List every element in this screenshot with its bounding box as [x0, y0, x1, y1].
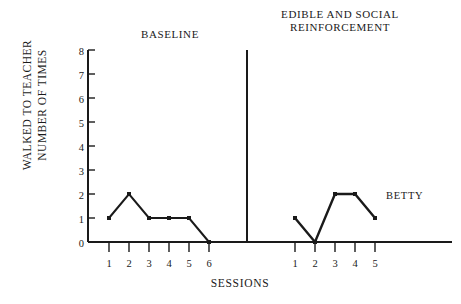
data-markers-treatment — [293, 192, 377, 244]
data-line-baseline — [109, 194, 209, 242]
x-axis-ticks-baseline — [109, 242, 209, 252]
data-line-treatment — [295, 194, 375, 242]
chart-figure: BASELINE EDIBLE AND SOCIAL REINFORCEMENT… — [0, 0, 461, 304]
y-axis-ticks — [88, 50, 95, 218]
x-axis-ticks-treatment — [295, 242, 375, 252]
chart-plot-area — [0, 0, 461, 304]
